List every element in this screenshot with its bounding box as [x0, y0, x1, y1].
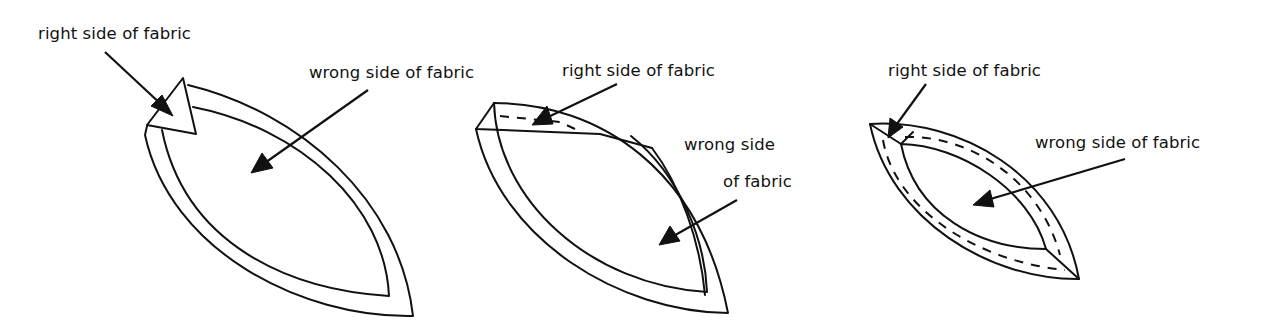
figure-2-wrong-side-label-line2: of fabric — [723, 174, 792, 191]
figure-2-right-side-arrow — [544, 84, 617, 119]
figure-2-wrong-side-arrowhead — [659, 226, 680, 245]
figure-1-inner-edge — [162, 107, 389, 296]
figure-3-fabric-piece — [870, 84, 1125, 279]
figure-2-wrong-side-arrow — [670, 200, 737, 238]
figure-1-right-side-label: right side of fabric — [38, 26, 191, 43]
figure-3-inner-edge — [901, 144, 1046, 249]
figure-2-wrong-side-label-line1: wrong side — [684, 137, 775, 154]
figure-2-right-side-label: right side of fabric — [562, 63, 715, 80]
figure-3-wrong-side-label: wrong side of fabric — [1035, 135, 1200, 152]
figure-3-right-side-arrow — [894, 84, 926, 128]
figure-3-right-side-arrowhead — [888, 118, 903, 138]
figure-1-outer-edge — [145, 85, 413, 316]
figure-3-corner-crease-right — [1046, 249, 1079, 279]
fabric-folding-diagram: right side of fabric wrong side of fabri… — [0, 0, 1267, 332]
diagram-drawing — [0, 0, 1267, 332]
figure-1-right-side-arrow — [105, 52, 164, 107]
figure-1-wrong-side-arrowhead — [251, 153, 273, 173]
figure-3-right-side-label: right side of fabric — [888, 63, 1041, 80]
figure-3-wrong-side-arrowhead — [973, 190, 994, 207]
figure-2-fabric-piece — [476, 84, 737, 313]
figure-1-wrong-side-label: wrong side of fabric — [309, 65, 474, 82]
figure-1-wrong-side-arrow — [262, 90, 368, 165]
figure-1-fabric-piece — [105, 52, 413, 316]
